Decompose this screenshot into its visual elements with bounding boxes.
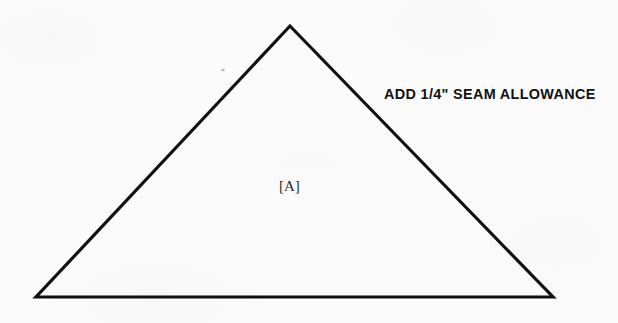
pattern-sheet: ADD 1/4" SEAM ALLOWANCE [A] — [0, 0, 618, 323]
piece-label: [A] — [279, 178, 300, 194]
triangle-pattern-piece — [0, 0, 618, 323]
seam-allowance-note: ADD 1/4" SEAM ALLOWANCE — [384, 86, 596, 102]
triangle-outline — [36, 26, 553, 297]
